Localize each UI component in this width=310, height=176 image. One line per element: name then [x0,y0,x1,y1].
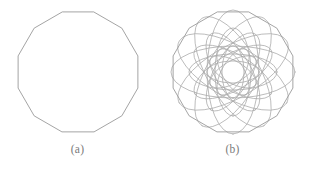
figure-caption-a: (a) [71,144,84,156]
rosette-ellipse-ring1-2 [166,18,299,125]
figure-panel-a: (a) [0,0,155,176]
polygon-diagram-a [8,2,148,142]
rosette-diagram-b [163,2,303,142]
figure-container: (a) (b) [0,0,310,176]
dodecagon-outline [18,12,138,132]
rosette-ellipse-ring1-3 [179,5,286,138]
ellipse-rosette-group [166,5,299,138]
rosette-ellipse-ring1-6 [166,18,299,125]
figure-caption-b: (b) [225,144,239,156]
figure-panel-b: (b) [155,0,310,176]
rosette-ellipse-ring1-5 [179,5,286,138]
